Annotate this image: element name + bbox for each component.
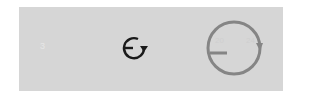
inner-label-left: 20	[215, 36, 224, 45]
rotate-clockwise-large-icon[interactable]: 20 24	[203, 18, 269, 78]
inner-label-right: 24	[246, 36, 255, 45]
rotate-clockwise-icon[interactable]	[119, 33, 153, 63]
left-label: 3	[40, 41, 45, 51]
